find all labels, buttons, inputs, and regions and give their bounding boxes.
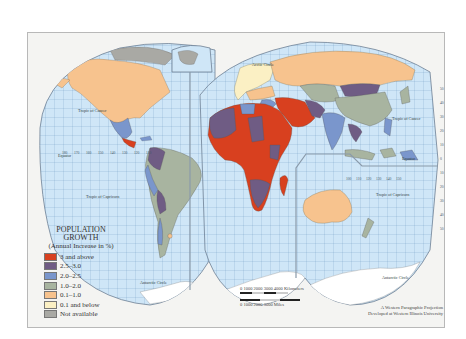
svg-text:170: 170 — [74, 151, 80, 155]
scale-miles-bar — [240, 299, 350, 301]
legend-item-2-0-2-5: 2.0–2.5 — [36, 271, 126, 281]
svg-text:50: 50 — [440, 227, 444, 231]
svg-text:40: 40 — [440, 101, 444, 105]
eastern-hemisphere-lobe: Tropic of Cancer Equator Tropic of Capri… — [195, 38, 445, 310]
svg-text:10: 10 — [440, 171, 444, 175]
equator-east-label: Equator — [402, 156, 416, 161]
svg-text:30: 30 — [440, 115, 444, 119]
svg-text:10: 10 — [440, 143, 444, 147]
tropic-of-cancer-east-label: Tropic of Cancer — [392, 116, 421, 121]
svg-text:160: 160 — [86, 151, 92, 155]
svg-text:130: 130 — [122, 151, 128, 155]
legend-item-2-5-3-0: 2.5–3.0 — [36, 262, 126, 272]
svg-text:140: 140 — [110, 151, 116, 155]
svg-text:50: 50 — [440, 87, 444, 91]
svg-text:130: 130 — [376, 177, 382, 181]
swatch-2-0-2-5 — [44, 272, 57, 280]
swatch-3-above — [44, 253, 57, 261]
svg-text:110: 110 — [146, 151, 151, 155]
legend-item-not-available: Not available — [36, 310, 126, 320]
antarctic-circle-east-label: Antarctic Circle — [382, 275, 409, 280]
swatch-1-0-2-0 — [44, 282, 57, 290]
legend-item-1-0-2-0: 1.0–2.0 — [36, 281, 126, 291]
legend: POPULATION GROWTH (Annual Increase in %)… — [36, 226, 126, 319]
tropic-of-capricorn-east-label: Tropic of Capricorn — [376, 192, 410, 197]
legend-item-3-above: 3 and above — [36, 252, 126, 262]
svg-text:110: 110 — [356, 177, 361, 181]
scale-km-label: 0 1000 2000 3000 4000 Kilometers — [240, 286, 350, 291]
svg-text:180: 180 — [62, 151, 68, 155]
tropic-of-cancer-west-label: Tropic of Cancer — [78, 108, 107, 113]
scale-km-bar — [240, 292, 350, 294]
swatch-0-1-1-0 — [44, 291, 57, 299]
legend-title-line2: GROWTH — [36, 234, 126, 242]
legend-item-0-1-1-0: 0.1–1.0 — [36, 290, 126, 300]
svg-text:150: 150 — [396, 177, 402, 181]
swatch-2-5-3-0 — [44, 262, 57, 270]
swatch-0-1-below — [44, 301, 57, 309]
svg-text:20: 20 — [440, 185, 444, 189]
scale-bar: 0 1000 2000 3000 4000 Kilometers 0 1000 … — [240, 286, 350, 307]
credit-line-2: Developed at Western Illinois University — [358, 311, 443, 317]
svg-text:150: 150 — [98, 151, 104, 155]
swatch-not-available — [44, 310, 57, 318]
svg-text:0: 0 — [440, 157, 442, 161]
svg-text:30: 30 — [440, 199, 444, 203]
svg-text:120: 120 — [366, 177, 372, 181]
svg-text:100: 100 — [346, 177, 352, 181]
projection-credit: A Western Paragraphic Projection Develop… — [358, 305, 443, 316]
svg-text:140: 140 — [386, 177, 392, 181]
legend-item-0-1-below: 0.1 and below — [36, 300, 126, 310]
svg-text:20: 20 — [440, 129, 444, 133]
scale-miles-label: 0 1000 2000 3000 Miles — [240, 302, 350, 307]
latitude-ticks-right: 50 40 30 20 10 0 10 20 30 40 50 — [440, 87, 444, 231]
tropic-of-capricorn-west-label: Tropic of Capricorn — [86, 194, 120, 199]
antarctic-circle-west-label: Antarctic Circle — [140, 280, 167, 285]
svg-text:40: 40 — [440, 213, 444, 217]
legend-subtitle: (Annual Increase in %) — [36, 242, 126, 250]
arctic-circle-label: Arctic Circle — [252, 62, 274, 67]
svg-text:120: 120 — [134, 151, 140, 155]
